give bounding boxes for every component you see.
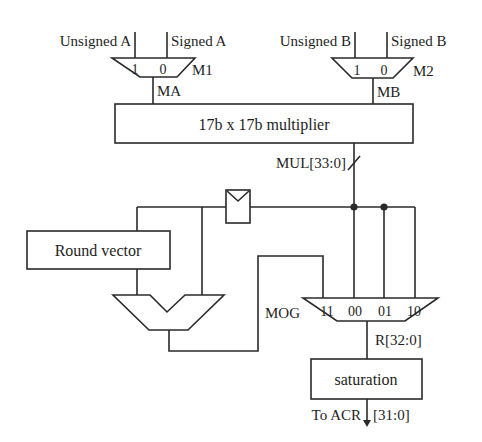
mux-m1-group: Unsigned A Signed A 1 0 M1 MA [60, 32, 227, 104]
adder-shape [113, 295, 224, 330]
round-vector-label: Round vector [55, 242, 142, 259]
mog-input-01: 01 [378, 304, 392, 319]
mux-m2-in0: 0 [381, 63, 388, 78]
register-box [226, 190, 250, 223]
input-label-signed-b: Signed B [391, 33, 446, 49]
saturation-block: saturation [311, 359, 422, 399]
mux-m2-in1: 1 [354, 63, 361, 78]
mux-m2-shape [332, 58, 413, 78]
mog-input-00: 00 [348, 304, 362, 319]
multiplier-block: 17b x 17b multiplier [115, 104, 413, 143]
mb-label: MB [377, 84, 400, 100]
mog-name: MOG [265, 305, 300, 321]
ma-label: MA [157, 83, 181, 99]
register-block [226, 190, 250, 223]
input-label-unsigned-b: Unsigned B [280, 33, 351, 49]
round-vector-block: Round vector [27, 231, 170, 269]
r-bus-label: R[32:0] [375, 332, 422, 348]
input-label-signed-a: Signed A [171, 33, 227, 49]
mux-m1-shape [112, 58, 195, 77]
mux-m1-in0: 0 [160, 62, 167, 77]
mog-input-10: 10 [407, 304, 421, 319]
arrow-down-icon [363, 420, 371, 427]
block-diagram: Unsigned A Signed A 1 0 M1 MA Unsigned B… [0, 0, 482, 442]
mul-bus-label: MUL[33:0] [276, 155, 346, 171]
junction-dot-1 [350, 203, 357, 210]
saturation-label: saturation [334, 371, 397, 388]
mux-m2-name: M2 [413, 63, 434, 79]
output-label: To ACR [312, 407, 361, 423]
mux-m1-in1: 1 [132, 62, 139, 77]
mog-input-11: 11 [320, 304, 333, 319]
mog-mux-group: 11 00 01 10 MOG [265, 298, 438, 321]
mux-m1-name: M1 [192, 62, 213, 78]
output-bus-label: [31:0] [373, 407, 410, 423]
multiplier-label: 17b x 17b multiplier [198, 116, 330, 134]
input-label-unsigned-a: Unsigned A [60, 33, 131, 49]
mux-m2-group: Unsigned B Signed B 1 0 M2 MB [280, 32, 447, 104]
